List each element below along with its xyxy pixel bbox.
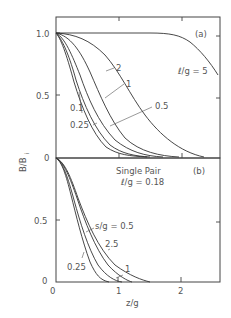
panel-b-title: Single Pair [116,166,161,176]
xtick-2: 2 [178,286,183,296]
panel-a-curves [56,33,218,157]
label-l025: 0.25 [70,120,89,130]
a-ytick-1: 1.0 [36,29,50,39]
panel-b-subtitle: ℓ/g = 0.18 [120,177,164,187]
a-ytick-05: 0.5 [36,91,50,101]
label-s05: s/g = 0.5 [95,221,134,231]
svg-text:B/B: B/B [18,157,28,172]
label-l01: 0.1 [70,103,84,113]
curve-l1 [56,33,179,157]
x-axis-title: z/g [126,298,139,308]
xtick-1: 1 [116,286,121,296]
panel-a-leaders [79,68,152,126]
panel-b-label: (b) [193,166,205,176]
panel-b-ticks [56,220,220,282]
xtick-0: 0 [50,286,55,296]
label-l05: 0.5 [155,101,169,111]
b-ytick-05: 0.5 [34,216,48,226]
svg-text:i: i [23,152,30,154]
label-l2: 2 [116,63,121,73]
figure: 1.0 0.5 0 0.5 0 0 1 2 z/g B/B i (a) ℓ/g … [0,0,231,318]
y-axis-title: B/B i [18,152,30,172]
panel-a-label: (a) [195,29,207,39]
label-s25: 2.5 [105,239,119,249]
a-ytick-0: 0 [44,153,49,163]
label-s025: 0.25 [67,262,86,272]
label-l5: ℓ/g = 5 [177,66,208,76]
label-s1: 1 [125,264,130,274]
label-l1: 1 [126,79,131,89]
b-ytick-0: 0 [42,276,47,286]
